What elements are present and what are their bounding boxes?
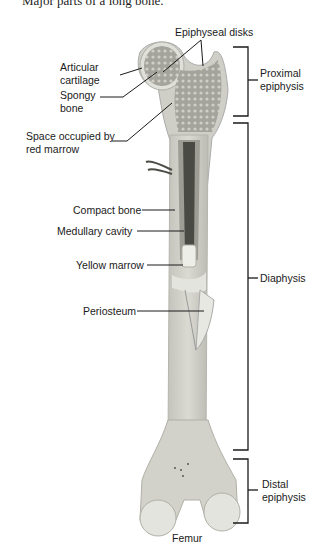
label-yellow-marrow: Yellow marrow bbox=[76, 259, 144, 272]
region-distal-2: epiphysis bbox=[262, 491, 306, 504]
region-diaphysis: Diaphysis bbox=[260, 272, 306, 285]
label-spongy-bone-2: bone bbox=[60, 102, 83, 115]
label-compact-bone: Compact bone bbox=[73, 204, 141, 217]
label-articular-cartilage-2: cartilage bbox=[60, 74, 100, 87]
distal-epiphysis-shape bbox=[140, 420, 240, 536]
label-femur: Femur bbox=[172, 532, 202, 545]
label-red-marrow-2: red marrow bbox=[26, 143, 79, 156]
region-distal-1: Distal bbox=[262, 478, 288, 491]
label-periosteum: Periosteum bbox=[83, 305, 136, 318]
region-proximal-1: Proximal bbox=[260, 67, 301, 80]
label-spongy-bone-1: Spongy bbox=[60, 89, 96, 102]
diaphysis-shape bbox=[146, 135, 214, 440]
region-proximal-2: epiphysis bbox=[260, 80, 304, 93]
label-articular-cartilage-1: Articular bbox=[60, 61, 99, 74]
region-brackets bbox=[233, 47, 258, 523]
label-medullary-cavity: Medullary cavity bbox=[57, 225, 132, 238]
label-epiphyseal-disks: Epiphyseal disks bbox=[175, 26, 253, 39]
label-red-marrow-1: Space occupied by bbox=[26, 130, 115, 143]
